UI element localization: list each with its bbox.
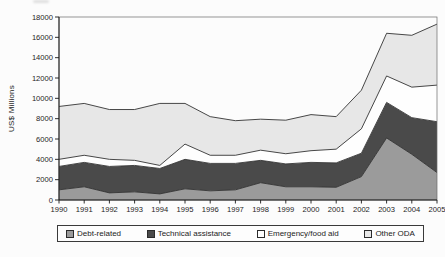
- y-tick-label: 18000: [32, 13, 53, 22]
- chart-canvas: 0200040006000800010000120001400016000180…: [0, 0, 445, 257]
- legend-label: Emergency/food aid: [268, 229, 339, 238]
- y-tick-label: 14000: [32, 53, 53, 62]
- y-axis-title: US$ Millions: [6, 74, 17, 144]
- legend-marker-technical-assistance: [147, 230, 155, 238]
- y-tick-label: 6000: [36, 135, 53, 144]
- x-tick-label: 1993: [126, 205, 143, 214]
- stacked-area-chart-figure: 0200040006000800010000120001400016000180…: [0, 0, 445, 257]
- y-tick-label: 8000: [36, 114, 53, 123]
- y-tick-label: 0: [49, 196, 53, 205]
- x-tick-label: 2000: [303, 205, 320, 214]
- x-tick-label: 1990: [51, 205, 68, 214]
- y-tick-label: 12000: [32, 74, 53, 83]
- x-tick-label: 2001: [328, 205, 345, 214]
- legend-label: Other ODA: [375, 229, 415, 238]
- x-tick-label: 2005: [429, 205, 445, 214]
- x-tick-label: 1998: [252, 205, 269, 214]
- y-tick-label: 10000: [32, 94, 53, 103]
- legend-label: Debt-related: [77, 229, 121, 238]
- legend-marker-other-oda: [364, 230, 372, 238]
- x-tick-label: 1996: [202, 205, 219, 214]
- legend-item-other-oda: Other ODA: [364, 229, 415, 238]
- legend-label: Technical assistance: [158, 229, 231, 238]
- legend-item-technical-assistance: Technical assistance: [147, 229, 231, 238]
- x-tick-label: 2004: [403, 205, 420, 214]
- legend: Debt-relatedTechnical assistanceEmergenc…: [57, 225, 424, 242]
- x-tick-label: 2003: [378, 205, 395, 214]
- legend-marker-emergency-food-aid: [257, 230, 265, 238]
- legend-item-emergency-food-aid: Emergency/food aid: [257, 229, 339, 238]
- y-tick-label: 4000: [36, 155, 53, 164]
- x-tick-label: 1997: [227, 205, 244, 214]
- legend-marker-debt-related: [66, 230, 74, 238]
- x-tick-label: 2002: [353, 205, 370, 214]
- x-tick-label: 1991: [76, 205, 93, 214]
- x-tick-label: 1992: [101, 205, 118, 214]
- x-tick-label: 1994: [151, 205, 168, 214]
- x-tick-label: 1995: [177, 205, 194, 214]
- y-tick-label: 2000: [36, 175, 53, 184]
- legend-item-debt-related: Debt-related: [66, 229, 121, 238]
- x-tick-label: 1999: [277, 205, 294, 214]
- y-tick-label: 16000: [32, 33, 53, 42]
